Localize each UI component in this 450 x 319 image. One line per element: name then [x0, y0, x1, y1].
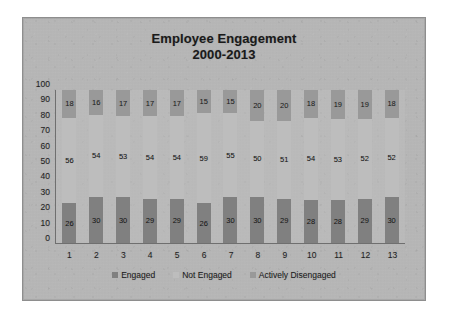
bar-segment-value: 30: [387, 216, 395, 225]
bar-segment[interactable]: 26: [62, 203, 76, 243]
x-axis-tick: 9: [271, 250, 298, 260]
bar-column[interactable]: 185428: [298, 90, 325, 243]
stacked-bar[interactable]: 155926: [197, 90, 211, 243]
bar-column[interactable]: 175330: [110, 90, 137, 243]
bar-segment-value: 18: [387, 99, 395, 108]
stacked-bar[interactable]: 185230: [385, 90, 399, 243]
bar-segment[interactable]: 29: [143, 199, 157, 243]
bar-segment[interactable]: 15: [197, 90, 211, 113]
bar-segment[interactable]: 51: [277, 121, 291, 199]
stacked-bar[interactable]: 185428: [304, 90, 318, 243]
bar-column[interactable]: 195229: [351, 90, 378, 243]
bar-column[interactable]: 175429: [163, 90, 190, 243]
bar-column[interactable]: 155926: [190, 90, 217, 243]
bar-segment[interactable]: 30: [250, 197, 264, 243]
bar-segment-value: 15: [199, 97, 207, 106]
bar-segment[interactable]: 52: [385, 118, 399, 198]
stacked-bar[interactable]: 165430: [89, 90, 103, 243]
bar-segment[interactable]: 28: [331, 200, 345, 243]
bar-segment[interactable]: 53: [331, 119, 345, 200]
bar-segment-value: 28: [334, 217, 342, 226]
y-axis-tick: 100: [24, 80, 50, 89]
legend-label: Engaged: [121, 270, 155, 280]
bar-column[interactable]: 175429: [137, 90, 164, 243]
bar-segment-value: 59: [199, 154, 207, 163]
bar-segment[interactable]: 52: [358, 119, 372, 199]
bar-segment[interactable]: 17: [170, 90, 184, 116]
bar-segment-value: 17: [173, 99, 181, 108]
bar-segment[interactable]: 17: [143, 90, 157, 116]
bar-segment[interactable]: 20: [277, 90, 291, 121]
stacked-bar[interactable]: 205129: [277, 90, 291, 243]
bar-column[interactable]: 205129: [271, 90, 298, 243]
stacked-bar[interactable]: 175429: [170, 90, 184, 243]
x-axis-tick: 3: [110, 250, 137, 260]
bar-segment[interactable]: 59: [197, 113, 211, 203]
bar-column[interactable]: 185230: [378, 90, 405, 243]
x-axis-tick: 4: [137, 250, 164, 260]
bar-segment[interactable]: 54: [304, 118, 318, 201]
bar-segment[interactable]: 56: [62, 118, 76, 204]
y-axis-tick: 70: [24, 126, 50, 135]
bar-segment[interactable]: 26: [197, 203, 211, 243]
bar-column[interactable]: 205030: [244, 90, 271, 243]
bar-segment[interactable]: 30: [116, 197, 130, 243]
bar-segment-value: 19: [361, 100, 369, 109]
bar-segment[interactable]: 18: [385, 90, 399, 118]
bar-segment-value: 29: [173, 216, 181, 225]
bar-segment[interactable]: 20: [250, 90, 264, 121]
stacked-bar[interactable]: 175330: [116, 90, 130, 243]
bar-segment[interactable]: 29: [277, 199, 291, 243]
bar-segment-value: 17: [119, 99, 127, 108]
y-axis-tick: 30: [24, 188, 50, 197]
bar-segment[interactable]: 17: [116, 90, 130, 116]
bar-segment[interactable]: 54: [89, 115, 103, 198]
bar-segment-value: 54: [92, 151, 100, 160]
legend-item[interactable]: Actively Disengaged: [250, 270, 336, 280]
chart-frame: Employee Engagement 2000-2013 1009080706…: [22, 17, 426, 301]
bar-segment[interactable]: 53: [116, 116, 130, 197]
bar-segment-value: 16: [92, 98, 100, 107]
y-axis-tick: 0: [24, 234, 50, 243]
bar-segment[interactable]: 55: [223, 113, 237, 197]
bar-segment[interactable]: 29: [170, 199, 184, 243]
bar-segment[interactable]: 18: [304, 90, 318, 118]
bar-segment[interactable]: 50: [250, 121, 264, 198]
stacked-bar[interactable]: 195229: [358, 90, 372, 243]
bar-segment[interactable]: 30: [385, 197, 399, 243]
bar-segment-value: 18: [65, 99, 73, 108]
bar-segment[interactable]: 29: [358, 199, 372, 243]
bar-segment-value: 30: [119, 216, 127, 225]
y-axis-tick: 50: [24, 157, 50, 166]
stacked-bar[interactable]: 185626: [62, 90, 76, 243]
bar-segment[interactable]: 30: [223, 197, 237, 243]
bar-segment-value: 26: [199, 219, 207, 228]
y-axis-tick: 90: [24, 95, 50, 104]
bar-segment[interactable]: 28: [304, 200, 318, 243]
bar-segment[interactable]: 30: [89, 197, 103, 243]
bar-segment-value: 17: [146, 99, 154, 108]
legend-item[interactable]: Not Engaged: [173, 270, 232, 280]
bar-group: 1856261654301753301754291754291559261555…: [56, 90, 405, 243]
bar-segment[interactable]: 19: [331, 90, 345, 119]
bar-column[interactable]: 185626: [56, 90, 83, 243]
bar-segment[interactable]: 54: [143, 116, 157, 199]
bar-column[interactable]: 165430: [83, 90, 110, 243]
stacked-bar[interactable]: 175429: [143, 90, 157, 243]
bar-segment[interactable]: 16: [89, 90, 103, 114]
bar-column[interactable]: 195328: [324, 90, 351, 243]
bar-segment[interactable]: 54: [170, 116, 184, 199]
stacked-bar[interactable]: 205030: [250, 90, 264, 243]
y-axis-tick: 10: [24, 219, 50, 228]
stacked-bar[interactable]: 155530: [223, 90, 237, 243]
bar-segment-value: 19: [334, 100, 342, 109]
chart-legend: EngagedNot EngagedActively Disengaged: [23, 270, 425, 280]
bar-segment[interactable]: 18: [62, 90, 76, 118]
stacked-bar[interactable]: 195328: [331, 90, 345, 243]
bar-segment[interactable]: 19: [358, 90, 372, 119]
legend-item[interactable]: Engaged: [112, 270, 155, 280]
bar-column[interactable]: 155530: [217, 90, 244, 243]
bar-segment-value: 50: [253, 154, 261, 163]
plot-area: 1856261654301753301754291754291559261555…: [55, 90, 405, 244]
bar-segment[interactable]: 15: [223, 90, 237, 113]
